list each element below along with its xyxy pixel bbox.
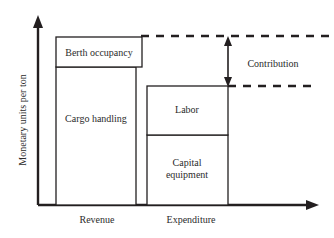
chart-figure: Berth occupancy Cargo handling Labor Cap… (0, 0, 334, 238)
bar-segment-cargo-handling (56, 67, 136, 205)
label-capital-equipment: Capital equipment (152, 157, 222, 181)
axis-category-label-revenue: Revenue (80, 214, 115, 225)
y-axis-title: Monetary units per ton (17, 74, 28, 165)
contribution-arrow (224, 36, 232, 87)
label-labor: Labor (175, 104, 199, 115)
y-axis (33, 15, 43, 205)
label-contribution: Contribution (247, 58, 298, 69)
label-berth-occupancy: Berth occupancy (65, 47, 132, 58)
label-capital-equipment-line1: Capital (173, 157, 202, 168)
label-cargo-handling: Cargo handling (65, 113, 127, 124)
label-capital-equipment-line2: equipment (166, 169, 208, 180)
chart-canvas (0, 0, 334, 238)
axis-category-label-expenditure: Expenditure (167, 214, 216, 225)
